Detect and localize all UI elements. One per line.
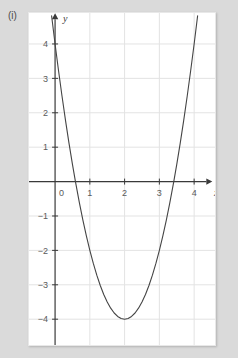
figure-container: (i) 01234−4−3−2−11234 xy — [0, 0, 238, 358]
axes — [29, 13, 212, 345]
figure-label: (i) — [8, 10, 17, 21]
y-tick-label: 1 — [43, 142, 48, 152]
x-tick-label: 1 — [87, 188, 92, 198]
axis-name-labels: xy — [62, 13, 215, 197]
plot-panel: 01234−4−3−2−11234 xy — [28, 12, 216, 346]
y-tick-label: 3 — [43, 74, 48, 84]
x-tick-label: 4 — [192, 188, 197, 198]
x-tick-label: 0 — [59, 188, 64, 198]
y-tick-label: −2 — [38, 246, 48, 256]
y-tick-label: −3 — [38, 280, 48, 290]
x-axis-label: x — [213, 187, 215, 198]
y-tick-label: 2 — [43, 108, 48, 118]
x-axis-arrow — [206, 178, 212, 184]
y-tick-label: 4 — [43, 39, 48, 49]
parabola-chart: 01234−4−3−2−11234 xy — [29, 13, 215, 345]
y-tick-label: −1 — [38, 211, 48, 221]
y-axis-arrow — [52, 13, 58, 19]
y-tick-label: −4 — [38, 314, 48, 324]
grid-lines — [29, 13, 215, 345]
y-axis-label: y — [62, 13, 68, 24]
x-tick-label: 3 — [157, 188, 162, 198]
x-tick-label: 2 — [122, 188, 127, 198]
